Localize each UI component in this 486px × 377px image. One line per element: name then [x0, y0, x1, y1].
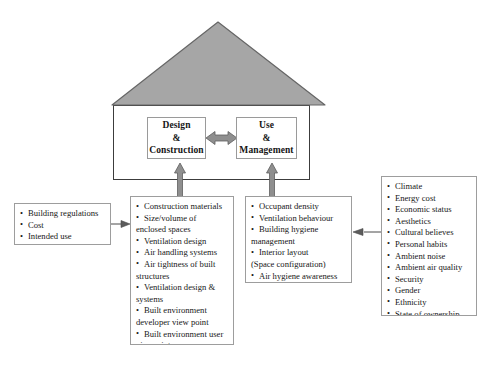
arrow-left-external: [353, 229, 381, 236]
list-item-continuation: (Space configuration): [251, 259, 347, 271]
list-item: Building hygiene: [251, 224, 347, 236]
list-item: Size/volume of: [136, 213, 229, 225]
design-construction-factors-box[interactable]: Construction materialsSize/volume ofencl…: [130, 196, 234, 345]
roof-triangle: [112, 22, 325, 105]
list-item: State of ownership: [387, 309, 472, 316]
core-design-line-2: &: [172, 132, 180, 145]
building-regulations-box[interactable]: Building regulationsCostIntended use: [14, 203, 111, 245]
core-design-line-1: Design: [162, 119, 190, 132]
list-item-continuation: management: [251, 236, 347, 248]
list-item-continuation: systems: [136, 294, 229, 306]
list-item: Construction materials: [136, 201, 229, 213]
list-item: Security: [387, 274, 472, 286]
list-item: Occupant density: [251, 201, 347, 213]
list-item-continuation: developer view point: [136, 317, 229, 329]
list-item: Built environment: [136, 305, 229, 317]
list-item: Aesthetics: [387, 216, 472, 228]
list-item: Air hygiene awareness: [251, 271, 347, 283]
building-regulations-list: Building regulationsCostIntended use: [20, 208, 106, 243]
diagram-canvas: Design & Construction Use & Management B…: [0, 0, 486, 377]
core-box-design-construction[interactable]: Design & Construction: [147, 117, 206, 159]
list-item: Ethnicity: [387, 297, 472, 309]
arrow-right-regulations: [111, 221, 130, 228]
list-item: Ambient noise: [387, 251, 472, 263]
list-item: Energy cost: [387, 193, 472, 205]
list-item: Built environment user: [136, 329, 229, 341]
design-construction-factors-list: Construction materialsSize/volume ofencl…: [136, 201, 229, 345]
arrow-bidirectional-core: [206, 132, 237, 145]
list-item: Ventilation design: [136, 236, 229, 248]
use-management-factors-list: Occupant densityVentilation behaviourBui…: [251, 201, 347, 282]
list-item: Intended use: [20, 231, 106, 243]
list-item: Building regulations: [20, 208, 106, 220]
arrow-up-thick-design: [175, 163, 186, 199]
core-design-line-3: Construction: [149, 144, 204, 157]
external-factors-box[interactable]: ClimateEnergy costEconomic statusAesthet…: [381, 176, 477, 316]
list-item: Ambient air quality: [387, 262, 472, 274]
list-item: Gender: [387, 285, 472, 297]
core-box-use-management[interactable]: Use & Management: [236, 117, 297, 159]
core-use-line-1: Use: [259, 119, 274, 132]
list-item: Interior layout: [251, 247, 347, 259]
external-factors-list: ClimateEnergy costEconomic statusAesthet…: [387, 181, 472, 316]
list-item: Ventilation behaviour: [251, 213, 347, 225]
list-item: Economic status: [387, 204, 472, 216]
list-item: Ventilation design &: [136, 282, 229, 294]
list-item: Air tightness of built: [136, 259, 229, 271]
list-item: Personal habits: [387, 239, 472, 251]
list-item: Climate: [387, 181, 472, 193]
list-item: Cultural believes: [387, 227, 472, 239]
core-use-line-2: &: [262, 132, 270, 145]
list-item-continuation: structures: [136, 271, 229, 283]
list-item: Air handling systems: [136, 247, 229, 259]
use-management-factors-box[interactable]: Occupant densityVentilation behaviourBui…: [245, 196, 352, 283]
arrow-up-thick-use: [267, 163, 278, 199]
core-use-line-3: Management: [239, 144, 293, 157]
list-item-continuation: enclosed spaces: [136, 224, 229, 236]
list-item-continuation: viewpoint: [136, 340, 229, 345]
list-item: Cost: [20, 220, 106, 232]
